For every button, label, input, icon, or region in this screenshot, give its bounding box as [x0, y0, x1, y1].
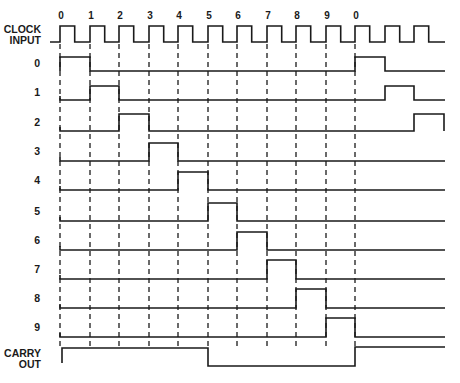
row-labels: CLOCK INPUT CARRY OUT 0123456789 [4, 23, 42, 370]
carry-out-wave [62, 347, 445, 366]
row-1-wave [60, 86, 445, 100]
row-label-3: 3 [34, 145, 40, 157]
row-6-wave [60, 232, 445, 250]
clock-tick-1: 1 [88, 10, 94, 21]
row-label-2: 2 [34, 116, 40, 128]
row-label-7: 7 [34, 263, 40, 275]
clock-tick-10: 0 [353, 10, 359, 21]
row-label-4: 4 [34, 174, 40, 186]
row-9-wave [60, 318, 445, 337]
row-label-0: 0 [34, 57, 40, 69]
clock-tick-7: 7 [265, 10, 271, 21]
timing-diagram: 01234567890 CLOCK INPUT CARRY OUT 012345… [0, 0, 460, 383]
row-label-1: 1 [34, 86, 40, 98]
clock-tick-labels: 01234567890 [58, 10, 359, 21]
clock-tick-8: 8 [294, 10, 300, 21]
clock-edge-guides [60, 44, 355, 346]
clock-tick-9: 9 [324, 10, 330, 21]
clock-tick-0: 0 [58, 10, 64, 21]
clock-input-wave [50, 26, 445, 42]
row-4-wave [60, 172, 445, 190]
row-label-6: 6 [34, 234, 40, 246]
row-8-wave [60, 289, 445, 308]
row-label-9: 9 [34, 321, 40, 333]
row-7-wave [60, 260, 445, 279]
carry-out-label-line2: OUT [19, 358, 42, 370]
row-0-wave [60, 57, 445, 71]
clock-tick-5: 5 [206, 10, 212, 21]
row-3-wave [60, 143, 445, 161]
waveforms [50, 26, 445, 366]
row-5-wave [60, 203, 445, 221]
row-label-8: 8 [34, 292, 40, 304]
clock-tick-2: 2 [117, 10, 123, 21]
clock-tick-6: 6 [235, 10, 241, 21]
clock-input-label-line2: INPUT [10, 34, 42, 46]
row-label-5: 5 [34, 205, 40, 217]
clock-tick-4: 4 [176, 10, 182, 21]
clock-tick-3: 3 [147, 10, 153, 21]
row-2-wave [60, 114, 444, 131]
